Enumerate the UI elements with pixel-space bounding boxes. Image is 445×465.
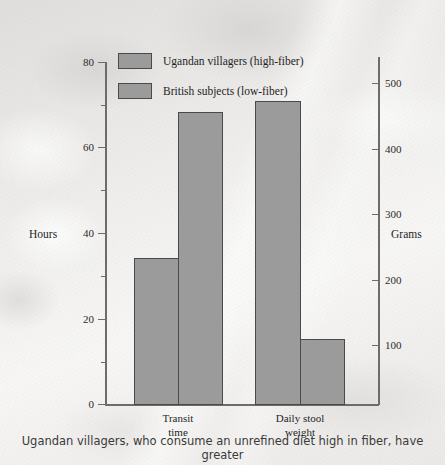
right-axis-tick-300: [372, 214, 380, 215]
bar-stool-weight-ugandan[interactable]: [255, 101, 301, 405]
left-axis-tick-30: [101, 276, 106, 277]
left-axis-tick-label-60: 60: [74, 142, 94, 153]
x-axis-label-transit-time-line1: Transit: [128, 411, 228, 425]
right-axis-tick-label-200: 200: [385, 275, 402, 286]
left-axis-tick-label-40: 40: [74, 228, 94, 239]
left-axis-tick-70: [101, 105, 106, 106]
x-axis-label-daily-stool-weight-line1: Daily stool: [250, 411, 350, 425]
right-axis-title: Grams: [391, 228, 422, 240]
left-axis-tick-label-0: 0: [74, 399, 94, 410]
left-axis-tick-10: [101, 362, 106, 363]
legend-label-ugandan-villagers: Ugandan villagers (high-fiber): [163, 55, 304, 67]
right-axis-line: [378, 57, 380, 405]
legend-item-british-subjects[interactable]: British subjects (low-fiber): [118, 83, 288, 99]
right-axis-tick-label-400: 400: [385, 144, 402, 155]
left-axis-tick-80: [98, 62, 106, 63]
left-axis-tick-label-80: 80: [74, 57, 94, 68]
left-axis-title: Hours: [29, 228, 57, 240]
right-axis-tick-200: [372, 280, 380, 281]
left-axis-tick-20: [98, 319, 106, 320]
left-axis-tick-50: [101, 190, 106, 191]
figure-caption: Ugandan villagers, who consume an unrefi…: [0, 434, 445, 462]
legend-label-british-subjects: British subjects (low-fiber): [163, 85, 288, 97]
bar-chart: 80 60 40 20 0 Hours 500 400 300 200 100 …: [0, 0, 445, 465]
right-axis-tick-label-300: 300: [385, 209, 402, 220]
bar-transit-time-british[interactable]: [178, 112, 223, 405]
right-axis-tick-500: [372, 83, 380, 84]
bar-stool-weight-british[interactable]: [300, 339, 345, 405]
left-axis-tick-40: [98, 233, 106, 234]
right-axis-tick-label-100: 100: [385, 340, 402, 351]
legend-swatch-british-subjects: [118, 83, 152, 99]
legend-item-ugandan-villagers[interactable]: Ugandan villagers (high-fiber): [118, 53, 304, 69]
right-axis-tick-label-500: 500: [385, 78, 402, 89]
left-axis-tick-60: [98, 147, 106, 148]
bar-transit-time-ugandan[interactable]: [134, 258, 179, 405]
legend-swatch-ugandan-villagers: [118, 53, 152, 69]
right-axis-tick-100: [372, 345, 380, 346]
left-axis-tick-label-20: 20: [74, 314, 94, 325]
right-axis-tick-400: [372, 149, 380, 150]
